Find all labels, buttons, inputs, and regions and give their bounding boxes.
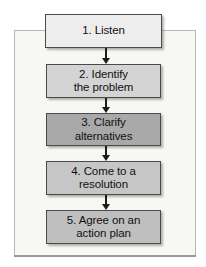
flow-node-5: 5. Agree on an action plan (46, 210, 161, 244)
flow-node-2-line-1: 2. Identify (79, 68, 128, 82)
flow-node-4-line-1: 4. Come to a (71, 165, 136, 179)
flow-arrow-2-to-3 (101, 98, 110, 113)
flow-node-2-line-2: the problem (74, 81, 134, 95)
flow-node-5-line-2: action plan (76, 227, 131, 241)
flow-node-5-line-1: 5. Agree on an (67, 214, 140, 228)
arrow-shaft (105, 48, 107, 58)
flowchart-figure: 1. Listen 2. Identify the problem 3. Cla… (0, 0, 206, 267)
flow-node-4: 4. Come to a resolution (46, 161, 161, 195)
flow-node-3: 3. Clarify alternatives (46, 113, 161, 146)
flow-arrow-1-to-2 (101, 48, 110, 64)
arrow-shaft (105, 195, 107, 204)
flow-node-1-line-1: 1. Listen (82, 24, 125, 38)
flow-node-3-line-2: alternatives (75, 130, 133, 144)
flow-node-2: 2. Identify the problem (46, 64, 161, 98)
flow-node-4-line-2: resolution (79, 178, 128, 192)
arrow-shaft (105, 146, 107, 155)
figure-panel-bottom-edge (14, 255, 196, 257)
flow-arrow-4-to-5 (101, 195, 110, 210)
flow-node-1: 1. Listen (45, 14, 162, 48)
flow-arrow-3-to-4 (101, 146, 110, 161)
flow-node-3-line-1: 3. Clarify (81, 116, 125, 130)
arrow-shaft (105, 98, 107, 107)
